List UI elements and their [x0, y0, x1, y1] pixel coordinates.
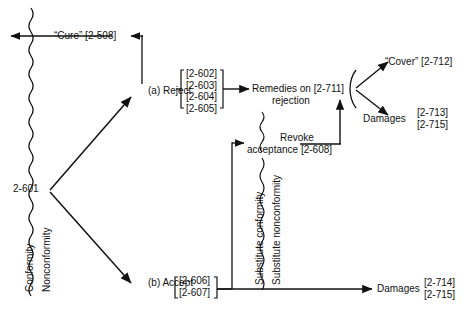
- reject-citation-bracket-right: [220, 70, 223, 108]
- citation-2-715: [2-715]: [417, 119, 448, 131]
- branch-to-reject: [50, 97, 131, 190]
- side-label-substitute-nonconformity: Substitute nonconformity: [271, 175, 282, 285]
- node-damages-upper-label: Damages: [363, 113, 406, 124]
- node-cure-label: “Cure” [2-508]: [54, 30, 116, 41]
- node-revoke-line2: acceptance [2-608]: [247, 144, 332, 155]
- arrow-to-damages-upper: [356, 90, 388, 115]
- citation-2-604: [2-604]: [186, 91, 217, 103]
- damages-upper-citation-stack: [2-713] [2-715]: [417, 107, 448, 130]
- citation-2-714: [2-714]: [424, 277, 455, 289]
- branch-to-accept: [50, 192, 131, 283]
- reject-to-cure-elbow: [142, 36, 143, 84]
- accept-citation-bracket-right: [214, 277, 217, 298]
- side-label-nonconformity: Nonconformity: [41, 228, 52, 292]
- node-reject-label: (a) Reject: [148, 85, 191, 96]
- citation-2-602: [2-602]: [186, 68, 217, 80]
- node-root-label: 2-601: [13, 183, 39, 194]
- citation-2-607: [2-607]: [179, 287, 210, 299]
- accept-to-revoke-elbow: [232, 143, 233, 289]
- citation-2-606: [2-606]: [179, 275, 210, 287]
- arrow-to-cover: [356, 62, 388, 88]
- side-label-substitute-conformity: Substitute conformity: [254, 192, 265, 285]
- node-cover-label: “Cover” [2-712]: [385, 56, 452, 67]
- reject-citation-stack: [2-602] [2-603] [2-604] [2-605]: [186, 68, 217, 114]
- node-damages-lower-label: Damages: [377, 283, 420, 294]
- damages-lower-citation-stack: [2-714] [2-715]: [424, 277, 455, 300]
- node-remedies-line2: rejection: [272, 95, 310, 106]
- citation-2-713: [2-713]: [417, 107, 448, 119]
- remedies-split-brace: [350, 70, 356, 108]
- side-label-conformity: Conformity: [24, 244, 35, 292]
- flow-diagram-canvas: [0, 0, 471, 309]
- accept-citation-stack: [2-606] [2-607]: [179, 275, 210, 298]
- citation-2-603: [2-603]: [186, 80, 217, 92]
- node-remedies-line1: Remedies on [2-711]: [252, 83, 344, 94]
- citation-2-715-lower: [2-715]: [424, 289, 455, 301]
- citation-2-605: [2-605]: [186, 103, 217, 115]
- node-revoke-line1: Revoke: [280, 132, 314, 143]
